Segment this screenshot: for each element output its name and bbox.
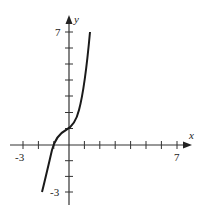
x-axis-label: x bbox=[188, 129, 194, 141]
x-axis-arrow-icon bbox=[183, 142, 192, 149]
y-max-label: 7 bbox=[55, 26, 61, 38]
y-axis-arrow-icon bbox=[66, 15, 73, 24]
x-max-label: 7 bbox=[174, 151, 180, 163]
y-axis-label: y bbox=[73, 13, 79, 25]
function-graph: x y -3 7 7 -3 bbox=[0, 0, 202, 217]
y-min-label: -3 bbox=[50, 186, 60, 198]
x-min-label: -3 bbox=[15, 151, 25, 163]
